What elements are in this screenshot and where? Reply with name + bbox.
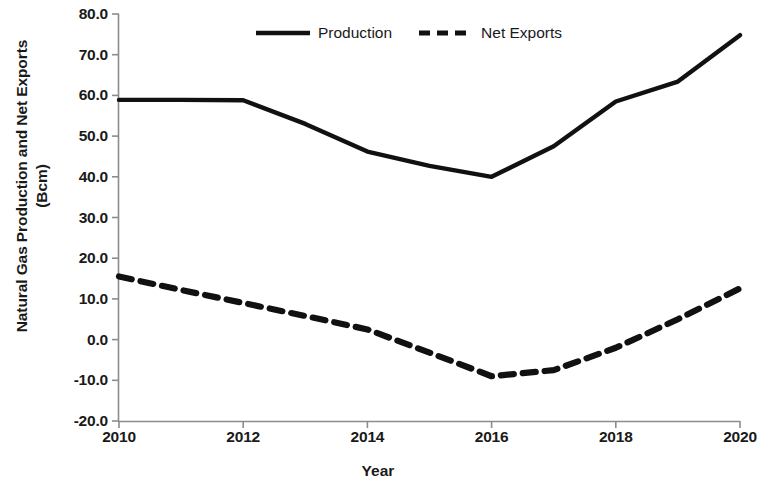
legend-label-production: Production (318, 24, 392, 42)
series-line-production (119, 35, 740, 177)
x-tick-label: 2012 (208, 428, 278, 446)
legend-item-production: Production (255, 24, 392, 42)
data-series-group (119, 35, 740, 376)
x-tick-label: 2018 (581, 428, 651, 446)
legend-swatch-dashed-line-icon (418, 26, 474, 40)
legend-label-net-exports: Net Exports (481, 24, 562, 42)
x-tick-label: 2016 (457, 428, 527, 446)
legend-item-net-exports: Net Exports (418, 24, 562, 42)
series-line-net-exports (119, 277, 740, 377)
x-tick-label: 2014 (332, 428, 402, 446)
x-axis-title: Year (0, 462, 756, 480)
x-tick-label: 2010 (84, 428, 154, 446)
axis-lines (119, 14, 741, 422)
legend-swatch-solid-line-icon (255, 26, 311, 40)
x-tick-label: 2020 (705, 428, 762, 446)
chart-legend: Production Net Exports (255, 24, 562, 42)
